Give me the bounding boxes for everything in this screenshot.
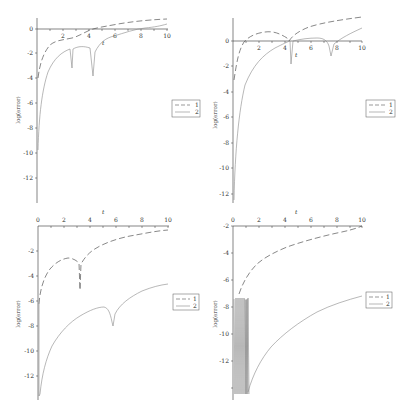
svg-text:log(error): log(error) — [15, 96, 22, 123]
svg-text:4: 4 — [88, 216, 92, 223]
svg-text:-8: -8 — [28, 322, 34, 329]
chart-panel-bottom-right: 0 2 4 6 8 10 -2 -4 -6 -8 -10 -12 t log(e… — [209, 204, 418, 408]
svg-text:-4: -4 — [223, 249, 229, 256]
svg-text:-2: -2 — [28, 247, 34, 254]
svg-text:-4: -4 — [28, 272, 34, 279]
svg-text:-6: -6 — [27, 99, 33, 106]
svg-text:t: t — [102, 208, 105, 215]
chart-top-right: 2 4 6 8 10 0 -2 -4 -6 -8 -10 -12 t log(e… — [209, 0, 418, 204]
svg-text:8: 8 — [335, 216, 339, 223]
chart-panel-bottom-left: 0 2 4 6 8 10 -2 -4 -6 -8 -10 -12 t log(e… — [0, 204, 209, 408]
svg-text:0: 0 — [231, 216, 235, 223]
svg-text:0: 0 — [225, 37, 229, 44]
legend-label-2: 2 — [193, 302, 197, 309]
svg-text:2: 2 — [257, 216, 261, 223]
svg-text:-10: -10 — [219, 164, 229, 171]
svg-text:2: 2 — [61, 32, 65, 39]
svg-text:-2: -2 — [223, 222, 229, 229]
chart-bottom-left: 0 2 4 6 8 10 -2 -4 -6 -8 -10 -12 t log(e… — [0, 204, 209, 408]
chart-bottom-right: 0 2 4 6 8 10 -2 -4 -6 -8 -10 -12 t log(e… — [209, 204, 418, 408]
svg-text:log(error): log(error) — [212, 300, 219, 327]
svg-text:2: 2 — [257, 44, 261, 51]
chart-top-left: 2 4 6 8 10 0 -2 -4 -6 -8 -10 -12 t log(e… — [0, 0, 209, 204]
svg-text:-10: -10 — [24, 347, 34, 354]
legend-label-2: 2 — [195, 108, 199, 115]
legend-label-1: 1 — [195, 101, 199, 108]
svg-text:-4: -4 — [223, 88, 229, 95]
svg-text:10: 10 — [164, 216, 172, 223]
svg-text:t: t — [295, 208, 298, 215]
svg-text:8: 8 — [335, 44, 339, 51]
chart-panel-top-right: 2 4 6 8 10 0 -2 -4 -6 -8 -10 -12 t log(e… — [209, 0, 418, 204]
svg-text:4: 4 — [283, 216, 287, 223]
svg-text:-2: -2 — [223, 62, 229, 69]
legend-label-2: 2 — [386, 300, 390, 307]
svg-text:-12: -12 — [24, 372, 34, 379]
chart-panel-top-left: 2 4 6 8 10 0 -2 -4 -6 -8 -10 -12 t log(e… — [0, 0, 209, 204]
svg-text:-12: -12 — [219, 357, 229, 364]
svg-text:2: 2 — [62, 216, 66, 223]
svg-text:t: t — [295, 51, 298, 58]
svg-text:6: 6 — [114, 216, 118, 223]
svg-text:4: 4 — [87, 32, 91, 39]
svg-text:8: 8 — [139, 32, 143, 39]
svg-text:-10: -10 — [219, 330, 229, 337]
svg-text:-12: -12 — [219, 190, 229, 197]
svg-text:6: 6 — [309, 44, 313, 51]
svg-text:-12: -12 — [23, 174, 33, 181]
svg-text:-10: -10 — [23, 149, 33, 156]
svg-text:log(error): log(error) — [15, 300, 22, 327]
legend-label-1: 1 — [386, 293, 390, 300]
svg-text:-8: -8 — [223, 303, 229, 310]
svg-text:0: 0 — [29, 25, 33, 32]
svg-text:8: 8 — [140, 216, 144, 223]
svg-text:10: 10 — [358, 44, 366, 51]
svg-text:-8: -8 — [223, 139, 229, 146]
legend-label-1: 1 — [389, 101, 393, 108]
svg-text:-2: -2 — [27, 49, 33, 56]
svg-text:-6: -6 — [223, 276, 229, 283]
legend-label-1: 1 — [193, 295, 197, 302]
svg-text:-6: -6 — [223, 113, 229, 120]
svg-text:-8: -8 — [27, 124, 33, 131]
svg-text:10: 10 — [358, 216, 366, 223]
svg-text:-4: -4 — [27, 74, 33, 81]
legend-label-2: 2 — [389, 108, 393, 115]
svg-text:0: 0 — [36, 216, 40, 223]
svg-text:10: 10 — [163, 32, 171, 39]
svg-text:6: 6 — [309, 216, 313, 223]
svg-text:4: 4 — [283, 44, 287, 51]
svg-text:-6: -6 — [28, 297, 34, 304]
svg-text:log(error): log(error) — [212, 101, 219, 128]
